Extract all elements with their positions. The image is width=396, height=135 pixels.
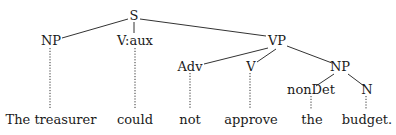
node-adv: Adv [176,59,203,74]
node-v: V [245,59,256,74]
node-nondet: nonDet [287,82,336,97]
node-np-object: NP [330,59,350,74]
leaf-approve: approve [224,112,278,127]
syntax-tree-diagram: S NP V:aux VP Adv V NP nonDet N The trea… [0,0,396,135]
leaf-the-treasurer: The treasurer [6,112,98,127]
leaf-the: the [301,112,323,127]
edge-s-vp [140,19,266,36]
leaf-could: could [117,112,153,127]
node-s: S [130,8,139,23]
node-n: N [361,82,372,97]
edge-vp-np [287,46,332,63]
leaf-not: not [179,112,201,127]
leaf-budget: budget. [342,112,392,127]
node-np-subject: NP [41,33,61,48]
node-vp: VP [267,33,286,48]
node-v-aux: V:aux [116,33,154,48]
edge-vp-v [257,49,276,62]
